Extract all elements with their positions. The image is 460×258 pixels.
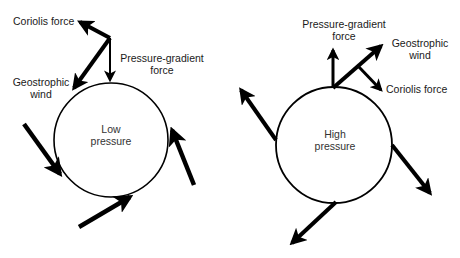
high-coriolis-label: Coriolis force [386,83,447,95]
low-geostrophic-line2: wind [12,88,70,100]
low-pressure-gradient-label: Pressure-gradient force [120,52,204,76]
high-geostrophic-line1: Geostrophic [387,37,453,49]
high-pressure-gradient-line1: Pressure-gradient [302,18,386,30]
high-geostrophic-label: Geostrophic wind [387,37,453,61]
low-coriolis-arrow [80,22,110,38]
high-pressure-gradient-line2: force [302,30,386,42]
low-geostrophic-line1: Geostrophic [12,76,70,88]
high-outflow-arrow-right [392,145,430,193]
low-pressure-gradient-line2: force [120,64,204,76]
low-coriolis-label: Coriolis force [13,15,74,27]
low-pressure-gradient-line1: Pressure-gradient [120,52,204,64]
high-outflow-arrow-bottom [292,202,336,243]
high-pressure-center-label: High pressure [309,128,361,152]
high-outflow-arrow-left [241,90,276,140]
high-pressure-gradient-label: Pressure-gradient force [302,18,386,42]
high-center-line1: High [309,128,361,140]
low-inflow-arrow-right [172,130,194,185]
low-pressure-center-label: Low pressure [86,123,136,147]
low-inflow-arrow-bottom [79,197,130,227]
low-geostrophic-label: Geostrophic wind [12,76,70,100]
low-center-line1: Low [86,123,136,135]
high-center-line2: pressure [309,140,361,152]
high-coriolis-arrow [358,66,381,90]
low-geostrophic-arrow [74,38,110,88]
low-center-line2: pressure [86,135,136,147]
high-geostrophic-line2: wind [387,49,453,61]
